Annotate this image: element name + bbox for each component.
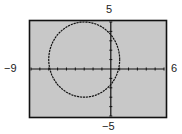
calculator-graph bbox=[0, 0, 182, 134]
